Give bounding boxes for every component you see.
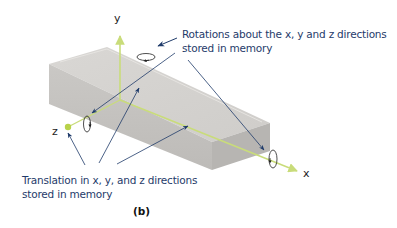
z-axis-label: z — [52, 125, 58, 138]
translation-line-2: stored in memory — [22, 187, 197, 201]
rotations-line-2: stored in memory — [182, 41, 387, 55]
z-axis-origin-dot — [65, 124, 71, 130]
y-axis-label: y — [114, 12, 121, 25]
bar-box — [49, 47, 270, 170]
rotations-annotation: Rotations about the x, y and z direction… — [182, 27, 387, 55]
y-rotation-icon — [137, 54, 155, 61]
translation-arrow-to-z — [68, 133, 85, 165]
figure-label: (b) — [133, 205, 150, 217]
x-axis-label: x — [303, 167, 310, 180]
translation-annotation: Translation in x, y, and z directions st… — [22, 173, 197, 201]
rotation-arrow-to-y — [158, 38, 177, 46]
rotations-line-1: Rotations about the x, y and z direction… — [182, 27, 387, 41]
translation-line-1: Translation in x, y, and z directions — [22, 173, 197, 187]
